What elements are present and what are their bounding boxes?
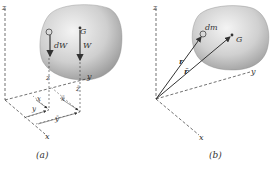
caption-b: (b) xyxy=(209,150,222,160)
y-axis-label-a: y xyxy=(86,72,92,81)
xbar-label: x̄ xyxy=(61,95,65,103)
panel-a: z y x dW G W z z̄ x x̄ y ȳ (a) xyxy=(1,3,122,160)
r-vector xyxy=(156,37,201,99)
g-label-b: G xyxy=(236,35,243,44)
dw-label: dW xyxy=(54,41,68,50)
center-of-mass-dot xyxy=(231,34,234,37)
z-elem-label: z xyxy=(45,74,50,82)
rigid-body-a xyxy=(40,5,122,80)
rigid-body-b xyxy=(192,6,269,70)
panel-b: z y x dm G r r̄ (b) xyxy=(152,3,269,160)
w-label: W xyxy=(83,41,92,50)
figure-canvas: z y x dW G W z z̄ x x̄ y ȳ (a) z y x dm … xyxy=(0,0,279,169)
x-axis-a xyxy=(5,100,45,134)
y-dim-arrow xyxy=(26,111,46,117)
zbar-label: z̄ xyxy=(75,85,80,93)
x-axis-label-b: x xyxy=(199,133,204,142)
ybar-label: ȳ xyxy=(54,115,60,123)
y-axis-b xyxy=(156,72,250,99)
caption-a: (a) xyxy=(36,150,49,160)
rbar-label: r̄ xyxy=(184,66,189,76)
x-elem-label: x xyxy=(37,95,41,103)
y-elem-label: y xyxy=(31,105,37,113)
dm-label: dm xyxy=(205,23,218,32)
g-label-a: G xyxy=(80,27,87,36)
y-axis-label-b: y xyxy=(250,67,256,76)
x-axis-b xyxy=(156,99,199,135)
z-axis-label-a: z xyxy=(1,3,7,12)
z-axis-label-b: z xyxy=(152,3,158,12)
x-axis-label-a: x xyxy=(45,132,50,141)
